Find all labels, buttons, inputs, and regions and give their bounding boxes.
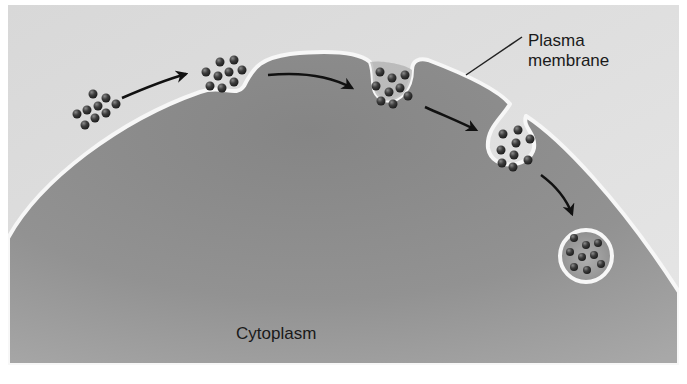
plasma-membrane-label-line1: Plasma xyxy=(528,31,585,50)
cytoplasm-label: Cytoplasm xyxy=(236,324,316,343)
free-vesicle xyxy=(560,230,612,282)
plasma-membrane-label-line2: membrane xyxy=(528,51,609,70)
endocytosis-diagram: Plasma membrane Cytoplasm xyxy=(0,0,687,384)
